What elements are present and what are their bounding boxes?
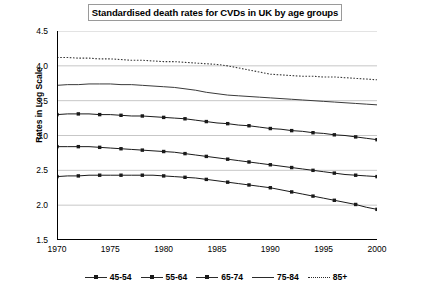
series-marker-65-74 xyxy=(354,135,357,138)
series-marker-45-54 xyxy=(247,183,250,186)
y-tick-label: 2.5 xyxy=(8,165,48,175)
series-marker-45-54 xyxy=(354,203,357,206)
series-line-75-84 xyxy=(57,84,377,105)
legend-label-45-54: 45-54 xyxy=(110,272,132,282)
series-line-45-54 xyxy=(57,175,377,209)
series-marker-55-64 xyxy=(77,145,80,148)
series-marker-55-64 xyxy=(162,150,165,153)
series-marker-55-64 xyxy=(311,169,314,172)
series-marker-65-74 xyxy=(57,113,59,116)
legend-entry-65-74[interactable]: 65-74 xyxy=(196,272,243,282)
series-marker-65-74 xyxy=(141,114,144,117)
series-marker-65-74 xyxy=(205,120,208,123)
legend-label-75-84: 75-84 xyxy=(277,272,299,282)
series-line-85+ xyxy=(57,57,377,79)
legend-swatch-85+ xyxy=(308,273,330,282)
series-marker-45-54 xyxy=(141,174,144,177)
chart-title-text: Standardised death rates for CVDs in UK … xyxy=(92,7,339,18)
series-marker-55-64 xyxy=(354,174,357,177)
legend-swatch-45-54 xyxy=(85,273,107,282)
legend-line xyxy=(252,277,274,278)
y-tick-label: 3.0 xyxy=(8,131,48,141)
series-marker-55-64 xyxy=(141,148,144,151)
x-tick-label: 1985 xyxy=(194,244,240,254)
y-tick-label: 4.0 xyxy=(8,61,48,71)
x-tick-label: 1990 xyxy=(247,244,293,254)
x-tick-label: 1980 xyxy=(141,244,187,254)
legend-entry-45-54[interactable]: 45-54 xyxy=(85,272,132,282)
series-line-55-64 xyxy=(57,147,377,177)
series-marker-55-64 xyxy=(183,152,186,155)
series-marker-55-64 xyxy=(57,145,59,148)
series-marker-45-54 xyxy=(226,180,229,183)
legend-line xyxy=(308,277,330,278)
series-marker-65-74 xyxy=(311,131,314,134)
chart-title: Standardised death rates for CVDs in UK … xyxy=(88,4,342,21)
series-marker-55-64 xyxy=(98,146,101,149)
series-marker-55-64 xyxy=(333,171,336,174)
series-marker-65-74 xyxy=(98,113,101,116)
series-marker-55-64 xyxy=(119,147,122,150)
series-marker-45-54 xyxy=(162,174,165,177)
series-marker-65-74 xyxy=(183,117,186,120)
legend-entry-55-64[interactable]: 55-64 xyxy=(141,272,188,282)
series-marker-55-64 xyxy=(205,155,208,158)
legend-marker xyxy=(94,275,98,279)
series-marker-55-64 xyxy=(290,166,293,169)
y-tick-label: 3.5 xyxy=(8,96,48,106)
legend-entry-85+[interactable]: 85+ xyxy=(308,272,347,282)
legend-label-85+: 85+ xyxy=(333,272,347,282)
series-marker-65-74 xyxy=(226,122,229,125)
series-marker-55-64 xyxy=(247,160,250,163)
chart-container: Standardised death rates for CVDs in UK … xyxy=(0,0,431,303)
legend-label-65-74: 65-74 xyxy=(221,272,243,282)
legend-entry-75-84[interactable]: 75-84 xyxy=(252,272,299,282)
chart-legend: 45-5455-6465-7475-8485+ xyxy=(61,269,371,285)
series-marker-45-54 xyxy=(119,174,122,177)
series-marker-65-74 xyxy=(375,138,377,141)
x-tick-label: 2000 xyxy=(354,244,400,254)
legend-marker xyxy=(150,275,154,279)
series-marker-65-74 xyxy=(247,124,250,127)
series-marker-45-54 xyxy=(290,190,293,193)
series-marker-45-54 xyxy=(98,174,101,177)
series-marker-55-64 xyxy=(375,175,377,178)
series-marker-55-64 xyxy=(269,163,272,166)
series-marker-65-74 xyxy=(77,112,80,115)
series-marker-45-54 xyxy=(269,186,272,189)
series-marker-65-74 xyxy=(119,114,122,117)
y-tick-label: 2.0 xyxy=(8,200,48,210)
legend-swatch-65-74 xyxy=(196,273,218,282)
legend-label-55-64: 55-64 xyxy=(166,272,188,282)
legend-swatch-75-84 xyxy=(252,273,274,282)
series-marker-45-54 xyxy=(183,176,186,179)
series-marker-55-64 xyxy=(226,157,229,160)
series-marker-65-74 xyxy=(269,127,272,130)
x-tick-label: 1970 xyxy=(34,244,80,254)
series-marker-45-54 xyxy=(375,208,377,211)
series-marker-65-74 xyxy=(333,133,336,136)
legend-marker xyxy=(205,275,209,279)
series-marker-45-54 xyxy=(205,178,208,181)
series-marker-45-54 xyxy=(333,199,336,202)
y-tick-label: 4.5 xyxy=(8,26,48,36)
legend-swatch-55-64 xyxy=(141,273,163,282)
series-marker-45-54 xyxy=(57,175,59,178)
series-marker-45-54 xyxy=(311,194,314,197)
series-marker-65-74 xyxy=(162,116,165,119)
x-tick-label: 1995 xyxy=(301,244,347,254)
plot-area xyxy=(57,31,377,240)
series-marker-65-74 xyxy=(290,129,293,132)
x-tick-label: 1975 xyxy=(87,244,133,254)
series-marker-45-54 xyxy=(77,174,80,177)
plot-svg xyxy=(57,31,377,240)
